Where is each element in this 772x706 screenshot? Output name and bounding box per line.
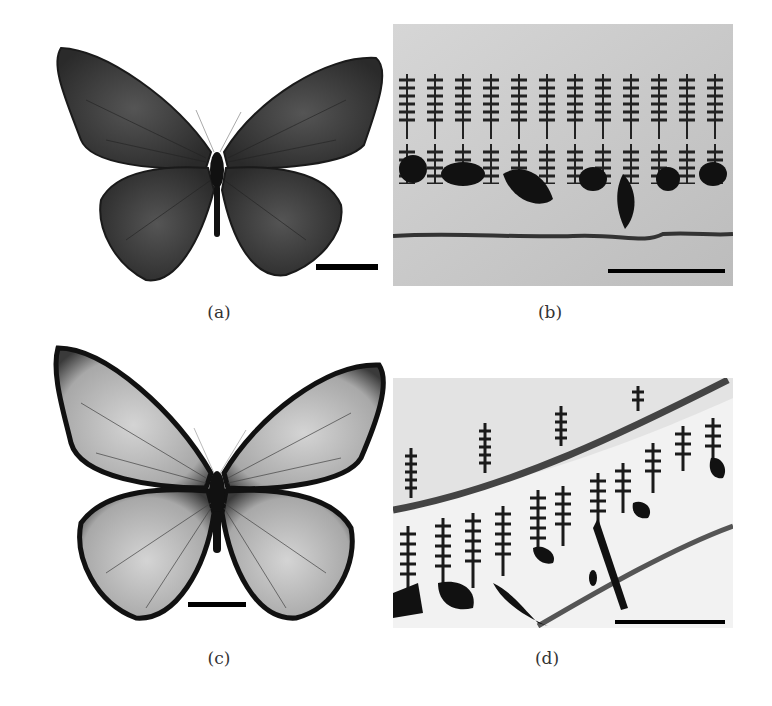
- micrograph-b-image: [393, 24, 733, 286]
- butterfly-a-image: [46, 40, 386, 290]
- panel-label-b: (b): [530, 302, 570, 322]
- panel-label-d: (d): [527, 648, 567, 668]
- panel-a-dark-butterfly: [46, 40, 386, 290]
- butterfly-c-image: [46, 343, 386, 628]
- panel-c-light-butterfly: [46, 343, 386, 628]
- panel-b-micrograph: [393, 24, 733, 286]
- scale-bar-d: [615, 620, 725, 624]
- panel-label-c: (c): [199, 648, 239, 668]
- scale-bar-c: [188, 602, 246, 607]
- scale-bar-a: [316, 264, 378, 270]
- scale-bar-b: [608, 269, 725, 273]
- panel-d-micrograph: [393, 378, 733, 628]
- panel-label-a: (a): [199, 302, 239, 322]
- micrograph-d-image: [393, 378, 733, 628]
